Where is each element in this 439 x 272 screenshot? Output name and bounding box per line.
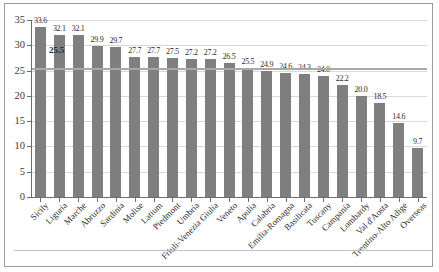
bar (299, 74, 310, 197)
x-axis-category-label: Veneto (215, 201, 239, 225)
bar (54, 35, 65, 197)
chart-frame: 05101520253035 33.632.132.129.929.727.72… (4, 3, 433, 267)
y-axis-tick-label: 0 (3, 192, 25, 202)
bar (318, 76, 329, 197)
y-axis-tick (27, 197, 31, 198)
reference-line-label: 25.5 (49, 45, 64, 55)
y-axis-tick (27, 172, 31, 173)
y-axis-tick-label: 30 (3, 40, 25, 50)
bar-value-label: 29.7 (103, 37, 129, 45)
y-axis-tick (27, 121, 31, 122)
reference-line (32, 68, 427, 70)
y-axis-tick (27, 71, 31, 72)
y-axis-tick-label: 25 (3, 66, 25, 76)
bar (35, 27, 46, 197)
bar-value-label: 22.2 (329, 75, 355, 83)
bar (205, 59, 216, 197)
footer-divider (14, 250, 433, 251)
y-axis-tick (27, 96, 31, 97)
bar (412, 148, 423, 197)
bar (337, 85, 348, 197)
bar-value-label: 32.1 (65, 25, 91, 33)
gridline (32, 20, 427, 21)
bar (393, 123, 404, 197)
bar (374, 103, 385, 197)
y-axis-tick (27, 45, 31, 46)
bar-value-label: 9.7 (405, 138, 431, 146)
bar (148, 57, 159, 197)
bar (242, 68, 253, 197)
plot-area: 05101520253035 33.632.132.129.929.727.72… (31, 20, 427, 198)
bar (356, 96, 367, 197)
bar (224, 63, 235, 197)
bar (261, 71, 272, 197)
y-axis-tick-label: 5 (3, 167, 25, 177)
y-axis-tick (27, 146, 31, 147)
y-axis-tick-label: 15 (3, 116, 25, 126)
y-axis-tick-label: 10 (3, 141, 25, 151)
y-axis-tick-label: 35 (3, 15, 25, 25)
bar-value-label: 18.5 (367, 93, 393, 101)
bar (167, 58, 178, 197)
bar (73, 35, 84, 197)
bar (186, 59, 197, 197)
bar (280, 73, 291, 197)
y-axis-tick-label: 20 (3, 91, 25, 101)
bar-value-label: 14.6 (386, 113, 412, 121)
bar (129, 57, 140, 197)
